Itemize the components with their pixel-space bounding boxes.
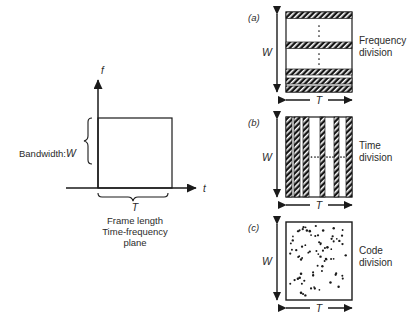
- panel-c-label-line-2: division: [359, 257, 392, 268]
- frame-brace: [98, 193, 168, 201]
- figure-canvas: f t W Bandwidth: T Frame length Time-fre…: [0, 0, 417, 317]
- figure-root: f t W Bandwidth: T Frame length Time-fre…: [0, 0, 417, 317]
- panel-frequency-division: (a) W T Frequency division: [248, 12, 406, 106]
- panel-b-label-line-1: Time: [359, 140, 381, 151]
- panel-time-division: (b) W T Time division: [248, 117, 392, 211]
- panel-code-division: (c) W T Code division: [248, 222, 392, 314]
- bandwidth-brace: [84, 118, 92, 164]
- caption-line-1: Frame length: [107, 215, 163, 226]
- panel-a-label-line-2: division: [359, 47, 392, 58]
- tf-rectangle: [98, 118, 172, 188]
- panel-a-tag: (a): [248, 12, 260, 23]
- panel-b-label-line-2: division: [359, 152, 392, 163]
- t-axis-label: t: [203, 183, 207, 194]
- bandwidth-symbol: W: [66, 147, 77, 159]
- caption-line-2: Time-frequency: [102, 226, 168, 237]
- time-frequency-plane: f t W Bandwidth: T Frame length Time-fre…: [19, 65, 207, 248]
- bandwidth-label: Bandwidth:: [19, 148, 66, 159]
- f-axis-label: f: [101, 65, 105, 76]
- panel-a-w-symbol: W: [262, 46, 273, 58]
- panel-c-label-line-1: Code: [359, 245, 383, 256]
- panel-a-label-line-1: Frequency: [359, 35, 406, 46]
- panel-c-box: [286, 222, 352, 300]
- panel-b-tag: (b): [248, 117, 260, 128]
- panel-c-tag: (c): [248, 222, 259, 233]
- panel-b-w-symbol: W: [262, 151, 273, 163]
- panel-c-w-symbol: W: [262, 255, 273, 267]
- caption-line-3: plane: [123, 237, 146, 248]
- frame-symbol: T: [132, 201, 140, 213]
